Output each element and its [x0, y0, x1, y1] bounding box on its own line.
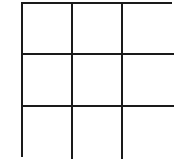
canvas	[0, 0, 178, 163]
grid-cell-r1-c3	[123, 4, 174, 55]
grid-cell-r3-c1	[23, 107, 73, 159]
three-by-three-grid	[21, 2, 172, 157]
grid-cell-r3-c3	[123, 107, 174, 159]
grid-cell-r2-c2	[73, 55, 123, 107]
grid-cell-r3-c2	[73, 107, 123, 159]
grid-cell-r1-c2	[73, 4, 123, 55]
grid-cell-r1-c1	[23, 4, 73, 55]
grid-cell-r2-c3	[123, 55, 174, 107]
grid-cell-r2-c1	[23, 55, 73, 107]
